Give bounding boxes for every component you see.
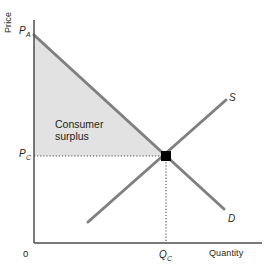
chart-canvas (0, 0, 271, 272)
consumer-surplus-label-line1: Consumer (55, 118, 103, 130)
y-tick-pc-base: P (19, 148, 26, 159)
supply-curve-label: S (229, 92, 236, 103)
x-tick-qc-subscript: C (167, 255, 172, 262)
consumer-surplus-label: Consumersurplus (55, 119, 103, 143)
consumer-surplus-chart: Price Quantity PA PC QC 0 S D Consumersu… (0, 0, 271, 272)
y-tick-pa-subscript: A (26, 31, 31, 38)
x-tick-qc-base: Q (159, 249, 167, 260)
demand-curve-label: D (228, 213, 235, 224)
equilibrium-point-marker (161, 151, 171, 161)
y-tick-label-pa: PA (19, 25, 30, 36)
consumer-surplus-label-line2: surplus (55, 130, 89, 142)
y-tick-pc-subscript: C (26, 154, 31, 161)
y-tick-pa-base: P (19, 25, 26, 36)
x-axis-title: Quantity (209, 248, 243, 258)
y-tick-label-pc: PC (19, 148, 31, 159)
y-axis-title: Price (3, 12, 13, 33)
origin-label: 0 (23, 249, 28, 260)
x-tick-label-qc: QC (159, 249, 172, 260)
